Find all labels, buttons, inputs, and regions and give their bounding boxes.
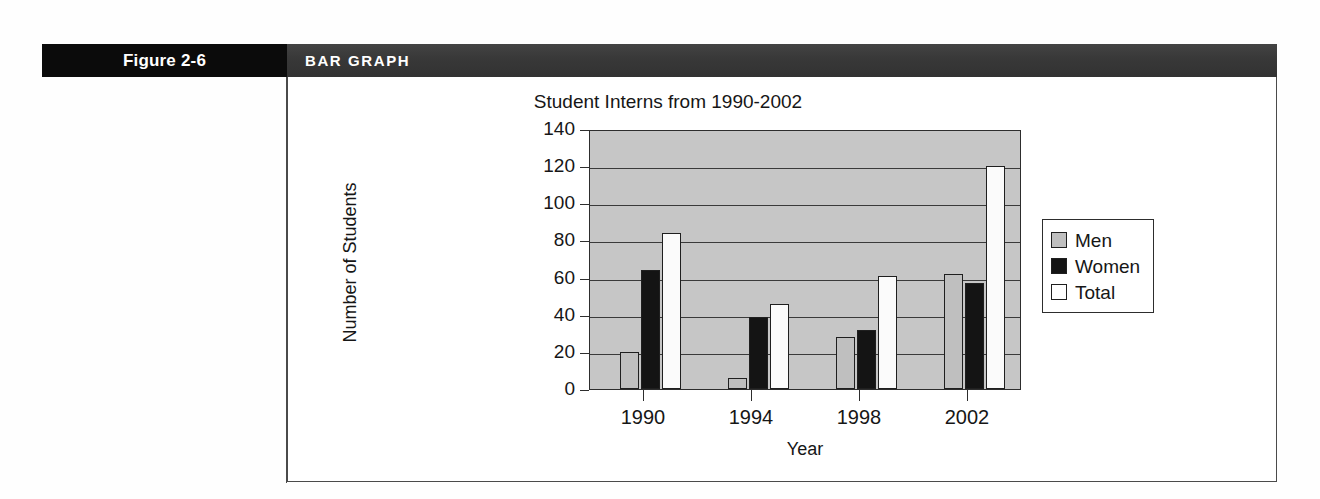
figure-panel: Student Interns from 1990-2002 Number of… <box>287 77 1277 482</box>
bar <box>620 352 639 389</box>
bar <box>749 317 768 389</box>
bar <box>641 270 660 389</box>
y-tick-label: 0 <box>564 378 575 400</box>
bar <box>878 276 897 389</box>
x-axis-title: Year <box>589 439 1021 460</box>
y-tick-mark <box>580 353 589 354</box>
y-tick-mark <box>580 204 589 205</box>
y-axis: Number of Students 020406080100120140 <box>288 130 589 390</box>
bar <box>857 330 876 389</box>
x-tick-label: 2002 <box>907 406 1027 429</box>
plot-area <box>589 130 1021 390</box>
y-axis-title: Number of Students <box>340 138 361 388</box>
x-tick-mark <box>643 390 644 401</box>
y-tick-mark <box>580 130 589 131</box>
figure-number-tab: Figure 2-6 <box>42 44 287 77</box>
legend-item: Women <box>1051 253 1140 279</box>
y-tick-mark <box>580 167 589 168</box>
legend-item: Men <box>1051 227 1140 253</box>
x-tick-mark <box>751 390 752 401</box>
y-tick-label: 60 <box>554 267 575 289</box>
y-tick-mark <box>580 390 589 391</box>
bar <box>662 233 681 389</box>
bar <box>728 378 747 389</box>
figure-type-tab: BAR GRAPH <box>287 44 1277 77</box>
y-tick-label: 100 <box>543 192 575 214</box>
chart-title: Student Interns from 1990-2002 <box>288 91 1048 113</box>
bar-group <box>914 131 1022 389</box>
legend-swatch-icon <box>1051 284 1067 300</box>
y-tick-label: 20 <box>554 341 575 363</box>
bar-chart: Student Interns from 1990-2002 Number of… <box>288 77 1278 482</box>
legend-label: Total <box>1075 283 1115 302</box>
x-tick-label: 1998 <box>799 406 919 429</box>
y-tick-mark <box>580 241 589 242</box>
figure-page: Figure 2-6 BAR GRAPH Student Interns fro… <box>0 0 1320 499</box>
bar-group <box>698 131 806 389</box>
bar <box>965 283 984 389</box>
bar-group <box>590 131 698 389</box>
x-tick-mark <box>967 390 968 401</box>
bar <box>986 166 1005 389</box>
bar <box>836 337 855 389</box>
y-tick-mark <box>580 279 589 280</box>
legend-swatch-icon <box>1051 258 1067 274</box>
y-tick-label: 40 <box>554 304 575 326</box>
legend-item: Total <box>1051 279 1140 305</box>
bar <box>944 274 963 389</box>
chart-legend: MenWomenTotal <box>1042 219 1154 313</box>
x-tick-mark <box>859 390 860 401</box>
figure-number-label: Figure 2-6 <box>123 51 206 71</box>
legend-swatch-icon <box>1051 232 1067 248</box>
figure-type-label: BAR GRAPH <box>305 52 410 69</box>
y-tick-label: 140 <box>543 118 575 140</box>
bar-series-layer <box>590 131 1020 389</box>
x-axis: 1990199419982002 <box>589 390 1021 436</box>
y-tick-mark <box>580 316 589 317</box>
legend-label: Women <box>1075 257 1140 276</box>
x-tick-label: 1990 <box>583 406 703 429</box>
y-tick-label: 120 <box>543 155 575 177</box>
legend-label: Men <box>1075 231 1112 250</box>
y-tick-label: 80 <box>554 229 575 251</box>
figure-header-band: Figure 2-6 BAR GRAPH <box>42 44 1277 77</box>
x-tick-label: 1994 <box>691 406 811 429</box>
bar <box>770 304 789 389</box>
bar-group <box>806 131 914 389</box>
